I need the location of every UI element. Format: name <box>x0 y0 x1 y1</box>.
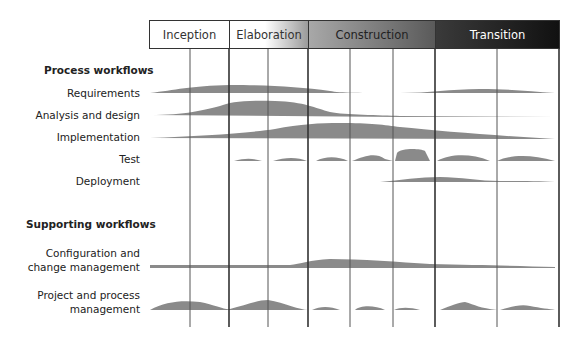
supporting-workflows-heading: Supporting workflows <box>26 218 156 230</box>
workflow-label-implementation: Implementation <box>57 130 140 144</box>
workflow-label-analysis-design: Analysis and design <box>35 108 140 122</box>
workflow-humps <box>150 85 555 310</box>
workflow-label-config-line1: Configuration and <box>46 246 140 260</box>
process-workflows-heading: Process workflows <box>44 64 154 76</box>
workflow-label-project-line2: management <box>70 302 140 316</box>
workflow-label-project-line1: Project and process <box>37 288 140 302</box>
workflow-label-requirements: Requirements <box>67 86 140 100</box>
workflow-label-config-line2: change management <box>28 260 140 274</box>
workflow-label-test: Test <box>119 152 140 166</box>
workflow-label-deployment: Deployment <box>76 174 140 188</box>
